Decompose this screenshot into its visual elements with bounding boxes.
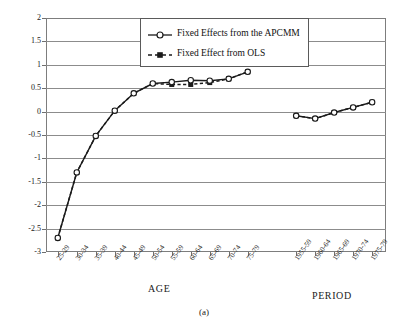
y-tick-mark (42, 229, 46, 230)
period-apcmm-marker (331, 110, 336, 115)
age-apcmm-marker (188, 78, 193, 83)
age-apcmm-marker (55, 235, 60, 240)
y-tick-label: -1.5 (28, 178, 41, 186)
age-apcmm-marker (74, 170, 79, 175)
filled-square-marker-icon (147, 47, 173, 59)
y-tick-label: -2 (34, 201, 41, 209)
y-tick-label: 2 (37, 14, 41, 22)
y-tick-label: 1.5 (31, 37, 41, 45)
age-apcmm-marker (112, 108, 117, 113)
gridline (46, 182, 386, 183)
age-apcmm-marker (226, 76, 231, 81)
period-apcmm-marker (350, 105, 355, 110)
y-tick-label: -0.5 (28, 131, 41, 139)
age-apcmm-marker (93, 133, 98, 138)
age-apcmm-marker (131, 91, 136, 96)
age-apcmm-marker (169, 79, 174, 84)
y-tick-label: -1 (34, 154, 41, 162)
legend-label-apcmm: Fixed Effects from the APCMM (177, 28, 300, 38)
legend-item-apcmm: Fixed Effects from the APCMM (147, 24, 300, 41)
gridline (46, 229, 386, 230)
legend: Fixed Effects from the APCMM Fixed Effec… (140, 18, 309, 67)
y-tick-label: -2.5 (28, 225, 41, 233)
y-tick-mark (42, 205, 46, 206)
age-apcmm-marker (245, 69, 250, 74)
figure: 21.510.50-0.5-1-1.5-2-2.5-3 25-2930-3435… (0, 0, 408, 335)
age-apcmm-marker (150, 81, 155, 86)
period-apcmm-marker (312, 116, 317, 121)
age-group-label: AGE (148, 283, 170, 294)
legend-label-ols: Fixed Effect from OLS (177, 48, 265, 58)
y-tick-mark (42, 182, 46, 183)
open-circle-marker-icon (147, 27, 173, 39)
y-tick-label: -3 (34, 248, 41, 256)
y-tick-label: 0.5 (31, 84, 41, 92)
y-tick-mark (42, 252, 46, 253)
age-apcmm-marker (207, 78, 212, 83)
y-tick-label: 0 (37, 108, 41, 116)
y-tick-label: 1 (37, 61, 41, 69)
period-group-label: PERIOD (312, 290, 352, 301)
legend-item-ols: Fixed Effect from OLS (147, 44, 300, 61)
period-apcmm-marker (369, 100, 374, 105)
period-apcmm-marker (293, 113, 298, 118)
gridline (46, 205, 386, 206)
figure-caption: (a) (0, 307, 408, 317)
